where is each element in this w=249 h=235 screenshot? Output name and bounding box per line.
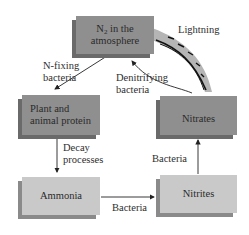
nitrites-label: Nitrites [160,188,237,200]
edge-label-n-fixing: N-fixing bacteria [43,60,79,84]
edge-label-decay: Decay processes [63,142,103,166]
n2-label-suffix: in the [107,23,133,34]
node-nitrites: Nitrites [160,175,237,213]
denitrifying-line1: Denitrifying [116,72,168,84]
n-fixing-line1: N-fixing [43,60,79,72]
plant-label-line1: Plant and [30,103,100,115]
edge-label-nitrites-to-nitrates: Bacteria [152,153,187,165]
nitrates-label: Nitrates [160,107,237,125]
edge-label-ammonia-to-nitrites: Bacteria [112,202,147,214]
node-ammonia: Ammonia [22,177,100,215]
decay-line1: Decay [63,142,103,154]
node-n2-atmosphere: N2 in the atmosphere [76,16,154,54]
edge-label-lightning: Lightning [178,24,219,36]
plant-label-line2: animal protein [30,115,100,127]
decay-line2: processes [63,154,103,166]
edge-label-denitrifying: Denitrifying bacteria [116,72,168,96]
denitrifying-line2: bacteria [116,84,168,96]
n2-label-line2: atmosphere [76,35,154,47]
ammonia-label: Ammonia [22,190,100,202]
node-plant-animal-protein: Plant and animal protein [22,95,100,135]
n-fixing-line2: bacteria [43,72,79,84]
n2-label: N [96,23,104,34]
node-nitrates: Nitrates [160,96,237,135]
